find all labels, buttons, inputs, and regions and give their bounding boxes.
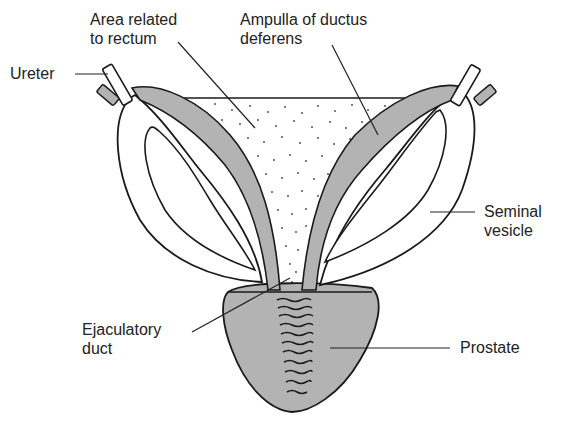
label-ureter: Ureter: [10, 64, 54, 83]
label-ampulla-of-ductus-deferens: Ampulla of ductus deferens: [240, 10, 367, 48]
label-prostate: Prostate: [460, 338, 520, 357]
label-area-related-to-rectum: Area related to rectum: [90, 10, 177, 48]
label-ejaculatory-duct: Ejaculatory duct: [82, 320, 161, 358]
left-ureter: [96, 64, 132, 106]
label-seminal-vesicle: Seminal vesicle: [484, 202, 542, 240]
